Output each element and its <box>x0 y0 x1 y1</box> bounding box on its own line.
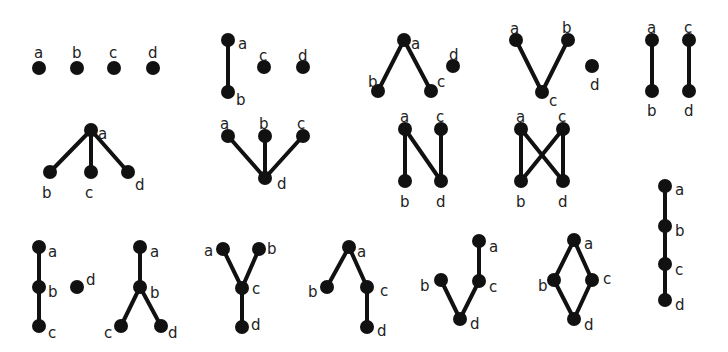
node-label: c <box>297 115 305 133</box>
hasse-diagrams-svg: abcdabcdabcdabcdabcdabcdabcdabcdabcdabcd… <box>0 0 728 352</box>
node-b <box>32 280 46 294</box>
node-label: a <box>584 235 593 253</box>
node-label: a <box>98 125 107 143</box>
node-a <box>221 33 235 47</box>
node-label: d <box>590 76 600 94</box>
node-label: a <box>220 115 229 133</box>
node-d <box>434 174 448 188</box>
node-a <box>32 240 46 254</box>
node-label: c <box>252 280 260 298</box>
node-label: d <box>277 175 287 193</box>
node-c <box>472 274 486 288</box>
node-b <box>547 273 561 287</box>
node-label: d <box>675 296 685 314</box>
node-label: d <box>251 316 261 334</box>
node-label: c <box>437 73 445 91</box>
node-d <box>360 320 374 334</box>
node-d <box>658 293 672 307</box>
node-c <box>32 319 46 333</box>
node-label: a <box>489 238 498 256</box>
node-c <box>107 61 121 75</box>
node-label: d <box>135 176 145 194</box>
node-label: c <box>549 92 557 110</box>
node-b <box>658 219 672 233</box>
node-label: c <box>109 44 117 62</box>
node-label: c <box>259 47 267 65</box>
node-label: c <box>675 261 683 279</box>
poset-16: abcd <box>538 233 611 334</box>
node-d <box>585 59 599 73</box>
node-label: b <box>259 115 269 133</box>
node-label: a <box>150 243 159 261</box>
node-d <box>556 174 570 188</box>
node-label: c <box>104 324 112 342</box>
poset-15: abcd <box>420 234 498 333</box>
node-label: c <box>48 324 56 342</box>
edge-b-c <box>542 40 568 92</box>
edge-a-d <box>91 130 128 172</box>
poset-4: abcd <box>509 19 600 110</box>
node-label: b <box>308 283 318 301</box>
poset-6: abcd <box>42 123 145 202</box>
node-b <box>398 174 412 188</box>
node-c <box>84 165 98 179</box>
node-a <box>472 234 486 248</box>
node-label: d <box>377 322 387 340</box>
poset-11: abcd <box>32 240 96 342</box>
edge-a-b <box>50 130 91 172</box>
node-label: d <box>584 316 594 334</box>
node-label: a <box>510 20 519 38</box>
node-label: a <box>400 108 409 126</box>
node-label: a <box>34 44 43 62</box>
edge-a-c <box>516 40 542 92</box>
node-label: b <box>267 240 277 258</box>
node-label: a <box>516 108 525 126</box>
poset-14: abcd <box>308 240 388 340</box>
node-a <box>84 123 98 137</box>
node-d <box>567 312 581 326</box>
node-b <box>514 174 528 188</box>
node-label: d <box>449 46 459 64</box>
poset-8: abcd <box>398 108 448 211</box>
node-label: b <box>400 193 410 211</box>
node-label: a <box>411 35 420 53</box>
node-label: a <box>675 181 684 199</box>
poset-3: abcd <box>368 33 460 98</box>
node-label: c <box>603 270 611 288</box>
poset-2: abcd <box>221 33 310 109</box>
node-label: b <box>538 277 548 295</box>
poset-7: abcd <box>220 115 310 193</box>
node-b <box>70 61 84 75</box>
node-b <box>645 84 659 98</box>
node-label: c <box>489 278 497 296</box>
node-d <box>154 319 168 333</box>
edge-a-d <box>405 129 441 181</box>
poset-5: abcd <box>645 19 696 120</box>
node-b <box>221 85 235 99</box>
node-label: a <box>48 243 57 261</box>
node-d <box>258 171 272 185</box>
node-b <box>320 280 334 294</box>
node-label: d <box>470 315 480 333</box>
node-c <box>535 85 549 99</box>
node-label: a <box>238 35 247 53</box>
node-a <box>216 242 230 256</box>
node-label: a <box>357 243 366 261</box>
node-label: d <box>436 193 446 211</box>
node-c <box>424 84 438 98</box>
edge-a-b <box>378 40 404 91</box>
node-label: b <box>516 193 526 211</box>
node-label: a <box>204 242 213 260</box>
node-label: c <box>380 282 388 300</box>
hasse-diagram-figure: abcdabcdabcdabcdabcdabcdabcdabcdabcdabcd… <box>0 0 728 352</box>
node-c <box>658 257 672 271</box>
poset-12: abcd <box>104 240 178 342</box>
node-d <box>682 84 696 98</box>
node-a <box>342 240 356 254</box>
node-a <box>133 240 147 254</box>
node-b <box>133 280 147 294</box>
node-label: b <box>562 19 572 37</box>
node-label: b <box>420 277 430 295</box>
node-a <box>397 33 411 47</box>
poset-1: abcd <box>32 44 160 75</box>
